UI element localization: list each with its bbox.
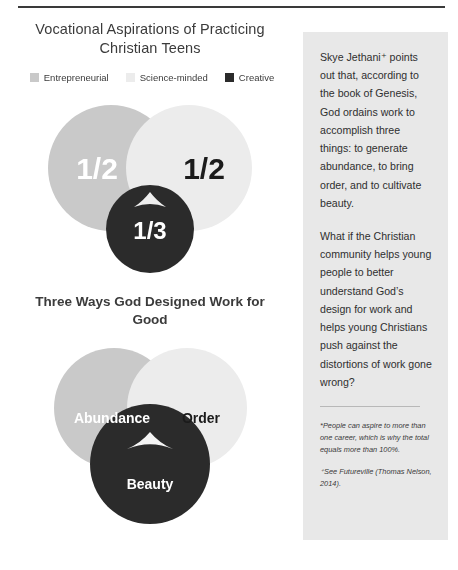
venn2-label-beauty: Beauty [127,476,174,492]
legend-item-creative: Creative [225,72,274,83]
legend-item-entrepreneurial: Entrepreneurial [30,72,109,83]
chart2-venn-diagram: Abundance Order Beauty [24,341,276,526]
chart2-title: Three Ways God Designed Work for Good [25,293,275,329]
venn2-label-abundance: Abundance [74,410,150,426]
sidebar-paragraph-1: Skye Jethani⁺ points out that, according… [320,48,434,212]
legend-swatch-icon-creative [225,73,234,82]
sidebar-divider [320,406,420,407]
venn1-value-entrepreneurial: 1/2 [76,152,118,185]
legend-item-science-minded: Science-minded [126,72,208,83]
top-divider-rule [18,6,445,8]
venn1-value-creative: 1/3 [133,217,166,244]
sidebar-footnote-2: ⁺See Futureville (Thomas Nelson, 2014). [320,466,434,490]
venn2-label-order: Order [182,410,221,426]
sidebar-paragraph-2: What if the Christian community helps yo… [320,227,434,391]
legend-swatch-icon-entrepreneurial [30,73,39,82]
legend-label-entrepreneurial: Entrepreneurial [44,72,109,83]
sidebar-footnote-1: *People can aspire to more than one care… [320,420,434,456]
legend-label-creative: Creative [239,72,274,83]
legend-label-science-minded: Science-minded [140,72,208,83]
chart1-venn-diagram: 1/2 1/2 1/3 [24,89,276,279]
chart1-legend: Entrepreneurial Science-minded Creative [0,72,300,83]
sidebar-commentary-panel: Skye Jethani⁺ points out that, according… [303,32,448,540]
venn1-value-science-minded: 1/2 [183,152,225,185]
chart1-title: Vocational Aspirations of Practicing Chr… [25,20,275,58]
legend-swatch-icon-science-minded [126,73,135,82]
main-content-column: Vocational Aspirations of Practicing Chr… [0,20,300,526]
